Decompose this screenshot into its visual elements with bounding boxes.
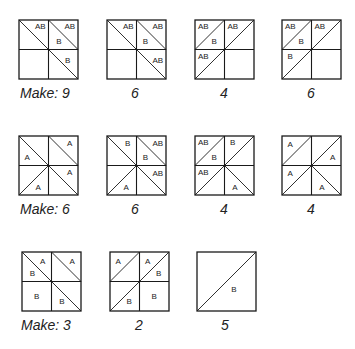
block-drawing: ABABBAB (106, 19, 167, 80)
fabric-label: A (145, 257, 151, 266)
fabric-label: B (299, 37, 304, 46)
fabric-label: B (288, 52, 293, 61)
fabric-label: B (56, 37, 61, 46)
fabric-label: A (232, 183, 238, 192)
quilt-block: ABABBB (18, 19, 79, 80)
fabric-label: AB (198, 52, 209, 61)
fabric-label: B (156, 269, 161, 278)
fabric-label: AB (285, 22, 296, 31)
block-drawing: ABABBB (18, 19, 79, 80)
fabric-label: A (69, 257, 75, 266)
fabric-label: A (124, 183, 130, 192)
fabric-label: B (230, 138, 235, 147)
fabric-label: B (152, 292, 157, 301)
fabric-label: AB (123, 22, 134, 31)
quilt-block: BABBABA (106, 135, 167, 196)
fabric-label: A (330, 153, 336, 162)
quilt-block: ABABBAB (106, 19, 167, 80)
fabric-label: AB (152, 139, 163, 148)
make-count-caption: 6 (131, 85, 139, 101)
make-count-caption: Make: 3 (21, 317, 71, 333)
fabric-label: A (288, 140, 294, 149)
block-drawing: AABBB (109, 251, 170, 312)
quilt-block: ABABB (21, 251, 82, 312)
make-count-caption: 4 (220, 85, 228, 101)
fabric-label: B (65, 56, 70, 65)
fabric-label: AB (314, 22, 325, 31)
fabric-label: AB (64, 22, 75, 31)
make-count-caption: 4 (220, 201, 228, 217)
block-drawing: B (196, 251, 257, 312)
fabric-label: AB (227, 22, 238, 31)
block-drawing: AAAA (281, 135, 342, 196)
fabric-label: B (212, 37, 217, 46)
block-drawing: AAAA (18, 135, 79, 196)
fabric-label: AB (198, 168, 209, 177)
quilt-block: B (196, 251, 257, 312)
fabric-label: A (319, 183, 325, 192)
fabric-label: AB (198, 22, 209, 31)
fabric-label: B (127, 297, 132, 306)
fabric-label: A (288, 169, 294, 178)
fabric-label: A (67, 168, 73, 177)
fabric-label: AB (152, 169, 163, 178)
fabric-label: AB (152, 22, 163, 31)
fabric-label: A (36, 183, 42, 192)
quilt-block: AAAA (18, 135, 79, 196)
quilt-block: ABBABB (281, 19, 342, 80)
fabric-label: A (67, 139, 73, 148)
fabric-label: B (143, 37, 148, 46)
make-count-caption: 6 (307, 85, 315, 101)
make-count-caption: 6 (131, 201, 139, 217)
fabric-label: A (116, 257, 122, 266)
make-count-caption: Make: 9 (20, 85, 70, 101)
quilt-block: ABBABAB (194, 19, 255, 80)
fabric-label: A (40, 257, 46, 266)
fabric-label: B (30, 269, 35, 278)
quilt-block: AAAA (281, 135, 342, 196)
block-drawing: ABBABB (281, 19, 342, 80)
fabric-label: B (34, 292, 39, 301)
make-count-caption: Make: 6 (20, 201, 70, 217)
make-count-caption: 4 (307, 201, 315, 217)
make-count-caption: 2 (135, 317, 143, 333)
block-drawing: ABABB (21, 251, 82, 312)
fabric-label: AB (35, 22, 46, 31)
fabric-label: AB (152, 56, 163, 65)
fabric-label: B (125, 139, 130, 148)
fabric-label: A (25, 153, 31, 162)
block-drawing: ABBABAB (194, 19, 255, 80)
fabric-label: B (212, 153, 217, 162)
block-drawing: BABBABA (106, 135, 167, 196)
fabric-label: B (143, 153, 148, 162)
fabric-label: AB (198, 138, 209, 147)
block-drawing: ABBBABA (194, 135, 255, 196)
make-count-caption: 5 (221, 317, 229, 333)
quilt-block: AABBB (109, 251, 170, 312)
fabric-label: B (231, 285, 236, 294)
quilt-block: ABBBABA (194, 135, 255, 196)
fabric-label: B (59, 297, 64, 306)
